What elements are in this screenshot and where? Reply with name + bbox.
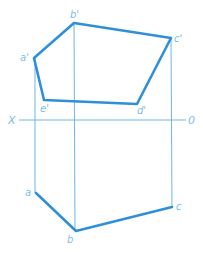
label-e-prime: e': [40, 103, 49, 114]
label-a: a: [25, 187, 31, 198]
label-b: b: [67, 234, 73, 245]
label-a-prime: a': [20, 52, 29, 63]
projection-diagram: X 0 a' b' c' d' e' a b c: [0, 0, 203, 253]
label-b-prime: b': [70, 9, 79, 20]
axis-label-x: X: [7, 114, 16, 127]
projector-c: [171, 38, 172, 207]
label-d-prime: d': [137, 105, 146, 116]
axis-label-0: 0: [188, 114, 195, 127]
projector-b: [74, 23, 75, 231]
front-view-pentagon: [34, 23, 171, 104]
label-c-prime: c': [174, 33, 182, 44]
top-view-polyline: [36, 193, 172, 231]
label-c: c: [176, 201, 182, 212]
